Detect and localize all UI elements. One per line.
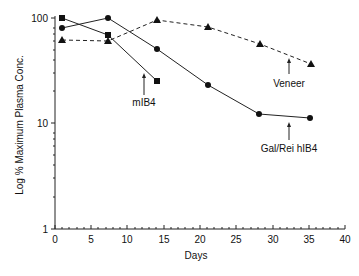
- y-tick-100: 100: [31, 13, 48, 24]
- arrow-galrei: [287, 122, 291, 140]
- x-tick-10: 10: [121, 234, 133, 245]
- label-mib4: mIB4: [132, 97, 156, 108]
- x-axis-title: Days: [185, 250, 208, 261]
- x-tick-20: 20: [194, 234, 206, 245]
- y-tick-1: 1: [42, 224, 48, 235]
- x-tick-0: 0: [52, 234, 58, 245]
- arrow-veneer: [287, 58, 291, 74]
- y-axis: [51, 16, 55, 229]
- y-axis-title: Log % Maximum Plasma Conc.: [14, 55, 25, 195]
- x-tick-30: 30: [267, 234, 279, 245]
- y-tick-10: 10: [37, 118, 49, 129]
- label-galrei-hib4: Gal/Rei hIB4: [261, 143, 318, 154]
- x-axis: [55, 225, 345, 229]
- x-tick-35: 35: [303, 234, 315, 245]
- x-tick-40: 40: [339, 234, 351, 245]
- plasma-concentration-chart: 100 10 1 0 5 10 15 20 25 30 35 40 Days L…: [0, 0, 359, 276]
- label-veneer: Veneer: [273, 78, 305, 89]
- x-tick-15: 15: [158, 234, 170, 245]
- x-tick-5: 5: [88, 234, 94, 245]
- series-veneer: [58, 16, 315, 67]
- x-tick-25: 25: [230, 234, 242, 245]
- arrow-mib4: [142, 73, 146, 95]
